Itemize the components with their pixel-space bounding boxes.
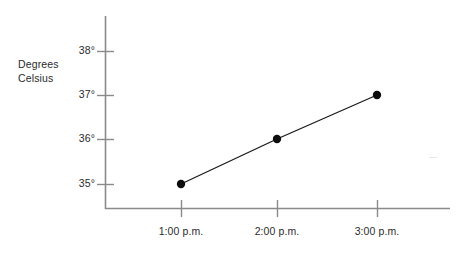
- y-axis-title-line-1: Degrees: [18, 57, 98, 71]
- data-point-2pm: [273, 135, 281, 143]
- x-tick-label-3pm: 3:00 p.m.: [332, 225, 422, 237]
- y-tick-label-35: 35°: [65, 177, 95, 189]
- y-tick-label-36: 36°: [65, 132, 95, 144]
- chart-plot-area: [0, 0, 463, 254]
- y-tick-label-37: 37°: [65, 88, 95, 100]
- y-axis-title-line-2: Celsius: [18, 71, 98, 85]
- data-point-3pm: [373, 91, 381, 99]
- data-point-1pm: [177, 180, 185, 188]
- temperature-line-chart: Degrees Celsius 38° 37° 36° 35° 1:00 p.m…: [0, 0, 463, 254]
- y-axis-title: Degrees Celsius: [18, 57, 98, 85]
- x-tick-label-1pm: 1:00 p.m.: [136, 225, 226, 237]
- y-tick-label-38: 38°: [65, 44, 95, 56]
- x-tick-label-2pm: 2:00 p.m.: [232, 225, 322, 237]
- scan-artifact-smudge: ⁓: [428, 153, 438, 163]
